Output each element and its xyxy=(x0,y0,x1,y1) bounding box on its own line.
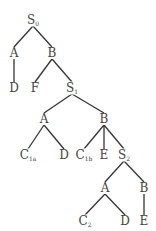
node-label: D xyxy=(120,214,130,228)
node-subscript: 1b xyxy=(85,155,93,162)
node-label: E xyxy=(100,148,109,162)
node-label: C xyxy=(78,214,87,228)
tree-node: E xyxy=(139,215,150,227)
node-label: D xyxy=(9,81,19,95)
tree-edge xyxy=(33,26,52,47)
node-label: A xyxy=(101,181,110,195)
tree-edge xyxy=(84,125,104,149)
node-label: A xyxy=(40,112,49,126)
node-subscript: 1a xyxy=(29,155,36,162)
tree-edge xyxy=(35,59,52,82)
node-label: B xyxy=(140,181,149,195)
tree-node: D xyxy=(8,82,20,94)
node-label: A xyxy=(10,46,19,60)
node-label: D xyxy=(59,148,69,162)
node-label: S xyxy=(27,13,35,27)
tree-node: F xyxy=(30,82,40,94)
tree-node: S1 xyxy=(65,82,79,95)
tree-node: S2 xyxy=(117,149,131,162)
tree-edge xyxy=(124,161,144,182)
tree-edge xyxy=(105,161,124,182)
tree-node: E xyxy=(99,149,110,161)
tree-node: A xyxy=(9,47,20,59)
node-label: E xyxy=(140,214,149,228)
node-label: F xyxy=(31,81,39,95)
tree-node: C2 xyxy=(77,215,92,228)
tree-edges xyxy=(0,0,156,231)
tree-edge xyxy=(104,125,124,149)
node-label: C xyxy=(20,148,29,162)
tree-edge xyxy=(44,125,64,149)
tree-edge xyxy=(105,194,125,215)
tree-edge xyxy=(44,94,72,113)
tree-node: A xyxy=(100,182,111,194)
node-label: C xyxy=(76,148,85,162)
node-label: B xyxy=(48,46,57,60)
node-subscript: 2 xyxy=(88,221,92,228)
tree-node: A xyxy=(39,113,50,125)
node-label: B xyxy=(100,112,109,126)
tree-node: D xyxy=(58,149,70,161)
tree-node: B xyxy=(99,113,110,125)
node-subscript: 2 xyxy=(126,155,130,162)
tree-edge xyxy=(14,26,33,47)
tree-node: D xyxy=(119,215,131,227)
tree-node: S0 xyxy=(26,14,40,27)
tree-node: C1a xyxy=(19,149,38,162)
node-subscript: 0 xyxy=(35,20,39,27)
node-subscript: 1 xyxy=(74,88,78,95)
tree-edge xyxy=(72,94,104,113)
node-label: S xyxy=(66,81,74,95)
tree-edge xyxy=(85,194,105,215)
tree-edge xyxy=(28,125,44,149)
tree-node: C1b xyxy=(75,149,94,162)
tree-edge xyxy=(52,59,72,82)
tree-node: B xyxy=(139,182,150,194)
tree-node: B xyxy=(47,47,58,59)
node-label: S xyxy=(118,148,126,162)
